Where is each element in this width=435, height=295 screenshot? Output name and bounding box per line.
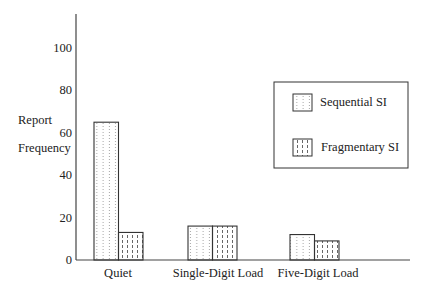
bar-sequential-0 <box>94 122 119 260</box>
bar-fragmentary-0 <box>119 232 144 260</box>
bar-fragmentary-1 <box>213 226 238 260</box>
bar-sequential-2 <box>290 235 315 260</box>
legend-label-fragmentary: Fragmentary SI <box>321 140 399 154</box>
legend-swatch-sequential <box>293 94 312 111</box>
x-category-label: Five-Digit Load <box>258 266 378 280</box>
y-tick-label: 20 <box>42 211 72 225</box>
y-tick-label: 100 <box>42 41 72 55</box>
legend-label-sequential: Sequential SI <box>320 95 387 109</box>
y-tick-label: 40 <box>42 168 72 182</box>
y-tick-label: 60 <box>42 126 72 140</box>
y-tick-label: 0 <box>42 253 72 267</box>
bar-fragmentary-2 <box>315 241 340 260</box>
legend-swatch-fragmentary <box>293 139 312 156</box>
bar-sequential-1 <box>188 226 213 260</box>
y-tick-label: 80 <box>42 83 72 97</box>
y-axis-label-line2: Frequency <box>18 141 71 155</box>
